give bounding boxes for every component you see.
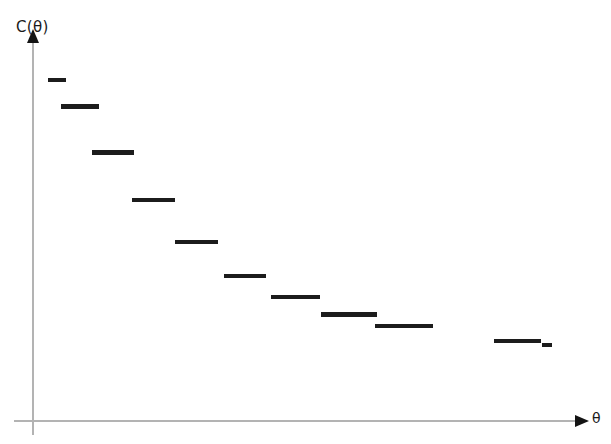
step-segment (375, 324, 433, 328)
step-segment (542, 343, 552, 347)
x-axis-label: θ (592, 410, 601, 426)
step-segment (92, 150, 134, 154)
step-segment (494, 339, 541, 343)
step-segment (61, 104, 99, 108)
axes-group (14, 29, 589, 435)
step-segment (224, 274, 267, 278)
step-segment (48, 78, 67, 82)
step-segment (132, 198, 175, 202)
arrow-right-icon (575, 415, 589, 427)
chart-plot-area (0, 0, 611, 444)
step-series-group (48, 78, 552, 347)
y-axis-label: C(θ) (16, 18, 49, 36)
step-segment (321, 312, 378, 316)
step-segment (271, 295, 320, 299)
step-segment (175, 240, 218, 244)
chart-figure: C(θ) θ (0, 0, 611, 444)
